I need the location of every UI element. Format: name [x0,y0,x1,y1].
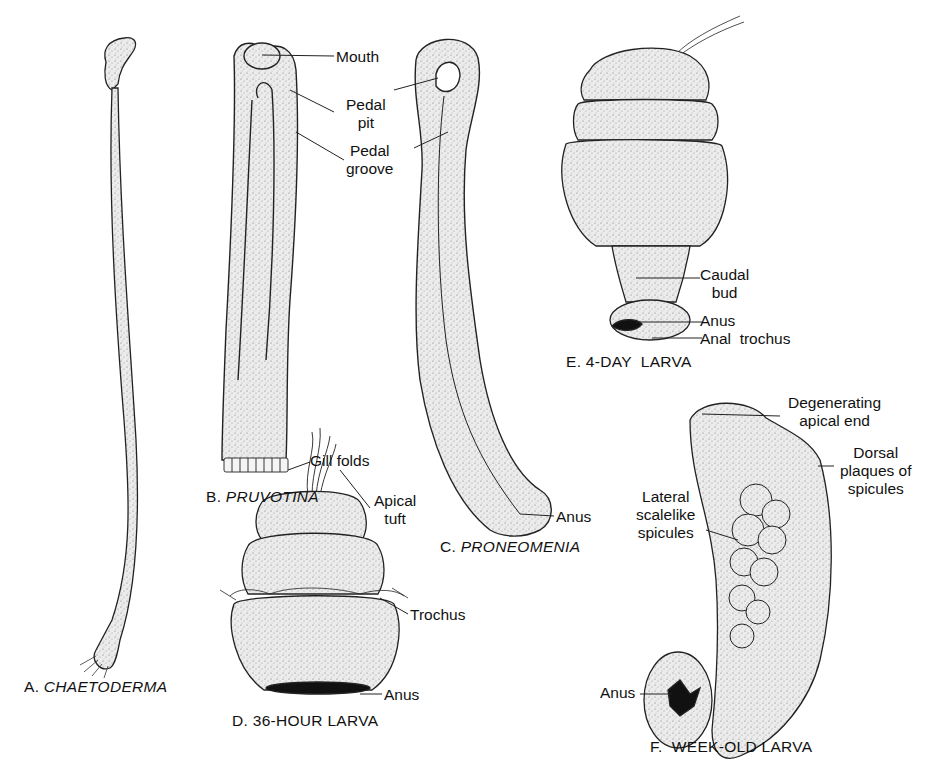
label-apical-tuft: Apical tuft [374,492,416,528]
label-degenerating-line2: apical end [788,412,881,430]
label-pedal-groove-line1: Pedal [346,142,393,160]
label-dorsal-line1: Dorsal [840,444,912,462]
label-apical-tuft-line1: Apical [374,492,416,510]
caption-d: D. 36-HOUR LARVA [232,712,378,730]
caption-a: A. CHAETODERMA [24,678,167,696]
caption-e: E. 4-DAY LARVA [566,353,692,371]
caption-c-name: PRONEOMENIA [461,538,581,555]
caption-b-prefix: B. [206,488,221,505]
pruvotina-figure [222,43,344,472]
proneomenia-figure [394,39,554,536]
label-caudal-bud-line1: Caudal [700,266,749,284]
label-lateral-line2: scalelike [636,506,695,524]
label-degenerating-line1: Degenerating [788,394,881,412]
caption-a-name: CHAETODERMA [44,678,168,695]
caption-c-prefix: C. [440,538,456,555]
label-pedal-groove: Pedal groove [346,142,393,178]
caption-f: F. WEEK-OLD LARVA [650,738,812,756]
week-old-larva-figure [640,403,834,758]
label-pedal-pit-line1: Pedal [346,96,386,114]
label-degenerating-apical-end: Degenerating apical end [788,394,881,430]
label-pedal-groove-line2: groove [346,160,393,178]
label-anus-weekold: Anus [600,684,635,702]
caption-a-prefix: A. [24,678,39,695]
caption-b: B. PRUVOTINA [206,488,319,506]
label-lateral-scalelike-spicules: Lateral scalelike spicules [636,488,695,542]
label-caudal-bud: Caudal bud [700,266,749,302]
illustration-canvas [0,0,949,780]
label-lateral-line1: Lateral [636,488,695,506]
label-anus-4day: Anus [700,312,735,330]
caption-b-name: PRUVOTINA [226,488,319,505]
caption-c: C. PRONEOMENIA [440,538,580,556]
label-anus-36h: Anus [384,686,419,704]
label-apical-tuft-line2: tuft [374,510,416,528]
label-dorsal-line3: spicules [840,480,912,498]
label-pedal-pit: Pedal pit [346,96,386,132]
label-dorsal-plaques: Dorsal plaques of spicules [840,444,912,498]
label-dorsal-line2: plaques of [840,462,912,480]
label-anal-trochus: Anal trochus [700,330,790,348]
label-anus-proneomenia: Anus [556,508,591,526]
label-trochus: Trochus [410,606,465,624]
label-pedal-pit-line2: pit [346,114,386,132]
label-lateral-line3: spicules [636,524,695,542]
chaetoderma-figure [80,38,137,678]
label-gill-folds: Gill folds [310,452,369,470]
label-caudal-bud-line2: bud [700,284,749,302]
label-mouth: Mouth [336,48,379,66]
